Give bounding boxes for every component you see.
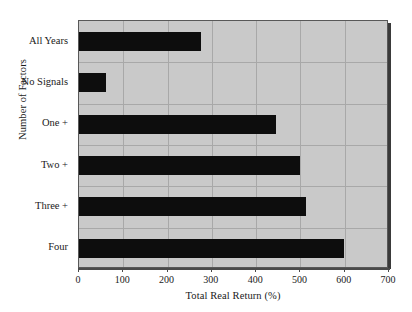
x-axis-title: Total Real Return (%) xyxy=(78,290,388,301)
x-axis-tick-label: 400 xyxy=(235,274,275,285)
y-axis-tick-label: One + xyxy=(0,117,68,128)
x-axis-tick-mark xyxy=(122,268,123,272)
y-axis-tick-labels: All YearsNo SignalsOne +Two +Three +Four xyxy=(0,20,74,268)
gridline-vertical xyxy=(168,21,169,267)
x-axis-tick-mark xyxy=(299,268,300,272)
gridline-horizontal xyxy=(79,145,387,146)
gridline-horizontal xyxy=(79,186,387,187)
plot-area xyxy=(78,20,388,268)
y-axis-tick-label: Three + xyxy=(0,200,68,211)
y-axis-tick-label: All Years xyxy=(0,35,68,46)
x-axis-tick-mark xyxy=(78,268,79,272)
x-axis-tick-label: 200 xyxy=(147,274,187,285)
gridline-vertical xyxy=(345,21,346,267)
gridline-horizontal xyxy=(79,104,387,105)
bar xyxy=(79,73,106,92)
x-axis-tick-label: 600 xyxy=(324,274,364,285)
y-axis-tick-label: Four xyxy=(0,241,68,252)
x-axis-tick-label: 500 xyxy=(279,274,319,285)
gridline-horizontal xyxy=(79,62,387,63)
bar-chart-figure: Number of Factors All YearsNo SignalsOne… xyxy=(0,0,412,312)
x-axis-tick-mark xyxy=(344,268,345,272)
x-axis-tick-mark xyxy=(211,268,212,272)
bar xyxy=(79,115,276,134)
x-axis-tick-label: 0 xyxy=(58,274,98,285)
gridline-vertical xyxy=(123,21,124,267)
x-axis-tick-label: 100 xyxy=(102,274,142,285)
bar xyxy=(79,156,300,175)
gridline-horizontal xyxy=(79,228,387,229)
x-axis-tick-mark xyxy=(255,268,256,272)
gridline-vertical xyxy=(212,21,213,267)
x-axis-tick-label: 700 xyxy=(368,274,408,285)
gridline-vertical xyxy=(300,21,301,267)
bar xyxy=(79,239,344,258)
y-axis-tick-label: No Signals xyxy=(0,76,68,87)
x-axis-tick-mark xyxy=(388,268,389,272)
bar xyxy=(79,32,201,51)
x-axis-tick-mark xyxy=(167,268,168,272)
y-axis-tick-label: Two + xyxy=(0,159,68,170)
gridline-vertical xyxy=(256,21,257,267)
x-axis-tick-label: 300 xyxy=(191,274,231,285)
bar xyxy=(79,197,306,216)
